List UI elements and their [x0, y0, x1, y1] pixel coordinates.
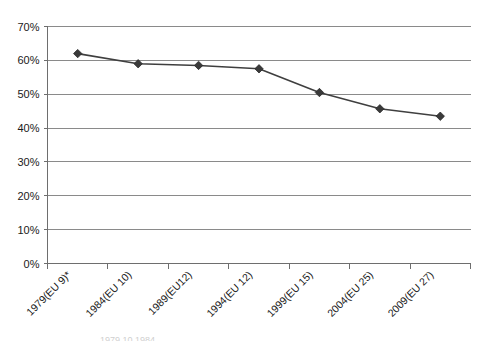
data-point-marker: 2004(EU 25): 45.7% — [376, 105, 384, 113]
x-axis-tick-labels: 1979(EU 9)*1984(EU 10)1989(EU12)1994(EU … — [24, 268, 436, 319]
x-axis-tick-marks — [48, 264, 471, 269]
line-chart: 0%10%20%30%40%50%60%70% 1979(EU 9)*: 62%… — [0, 0, 486, 341]
x-tick-label: 1999(EU 15) — [264, 268, 315, 319]
y-tick-label: 50% — [17, 88, 39, 100]
y-tick-label: 30% — [17, 156, 39, 168]
data-point-marker: 1979(EU 9)*: 62% — [74, 49, 82, 57]
y-tick-label: 70% — [17, 21, 39, 33]
y-axis-tick-marks — [44, 27, 48, 264]
x-tick-label: 2009(EU 27) — [385, 268, 436, 319]
y-axis-tick-labels: 0%10%20%30%40%50%60%70% — [17, 21, 39, 270]
y-tick-label: 60% — [17, 54, 39, 66]
data-point-marker: 1999(EU 15): 50.5% — [315, 88, 323, 96]
data-point-marker: 1994(EU 12): 57.5% — [255, 65, 263, 73]
x-tick-label: 1989(EU12) — [145, 268, 194, 317]
y-tick-label: 0% — [24, 258, 40, 270]
caption-sliver: 1979 10 1984 — [100, 334, 486, 341]
series-line-turnout — [78, 54, 441, 117]
x-tick-label: 2004(EU 25) — [325, 268, 376, 319]
y-tick-label: 10% — [17, 224, 39, 236]
y-tick-label: 20% — [17, 190, 39, 202]
x-tick-label: 1994(EU 12) — [204, 268, 255, 319]
chart-container: 0%10%20%30%40%50%60%70% 1979(EU 9)*: 62%… — [0, 0, 486, 341]
x-tick-label: 1979(EU 9)* — [24, 268, 73, 317]
gridlines-group — [48, 27, 471, 230]
data-point-marker: 2009(EU 27): 43.5% — [436, 112, 444, 120]
x-tick-label: 1984(EU 10) — [83, 268, 134, 319]
y-tick-label: 40% — [17, 122, 39, 134]
data-point-marker: 1989(EU12): 58.5% — [194, 61, 202, 69]
